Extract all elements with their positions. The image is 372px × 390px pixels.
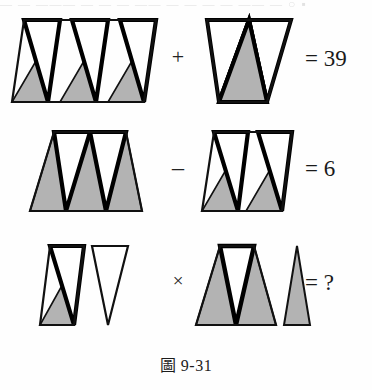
row-2-operator: –	[163, 154, 193, 181]
row-2-result: = 6	[305, 156, 335, 182]
figure-caption: 圖 9-31	[0, 352, 372, 376]
row-3-left-figure	[40, 240, 150, 332]
equation-row-2: – = 6	[0, 126, 372, 234]
row-3-operator: ×	[163, 270, 193, 292]
equation-row-1: + = 39	[0, 14, 372, 122]
row-2-right-figure	[202, 126, 306, 218]
figure-page: — — ——— — — — —— — — — — —— — ○ ▪	[0, 0, 372, 390]
row-1-operator: +	[163, 44, 193, 70]
row-3-right-figure	[196, 240, 311, 332]
row-1-right-figure	[207, 14, 291, 109]
row-2-left-figure	[30, 126, 154, 218]
cut-off-text-strip: — — ——— — — — —— — — — — —— — ○ ▪	[0, 0, 372, 9]
row-1-result: = 39	[305, 46, 347, 72]
equation-row-3: × = ?	[0, 240, 372, 348]
row-3-result: = ?	[305, 270, 334, 296]
row-1-left-figure	[12, 14, 162, 109]
